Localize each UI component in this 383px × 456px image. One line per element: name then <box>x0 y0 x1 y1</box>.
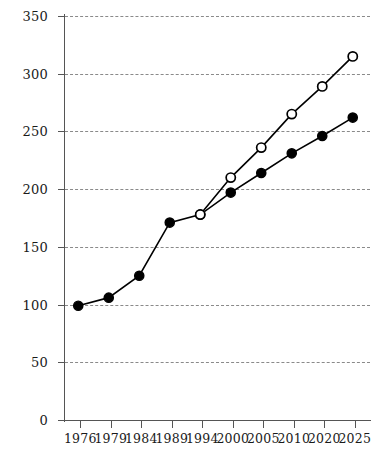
open-circle-series-point <box>257 143 266 152</box>
filled-circle-series-point <box>104 293 113 302</box>
filled-circle-series-point <box>318 131 327 140</box>
open-circle-series-line <box>200 56 353 214</box>
open-circle-series-point <box>318 82 327 91</box>
filled-circle-series-point <box>226 188 235 197</box>
filled-circle-series-point <box>348 113 357 122</box>
open-circle-series-point <box>226 173 235 182</box>
filled-circle-series-point <box>165 218 174 227</box>
filled-circle-series-point <box>135 271 144 280</box>
open-circle-series-point <box>196 210 205 219</box>
filled-circle-series-line <box>78 118 353 306</box>
open-circle-series-point <box>348 52 357 61</box>
series-layer <box>0 0 383 456</box>
filled-circle-series-point <box>257 168 266 177</box>
filled-circle-series-point <box>74 301 83 310</box>
filled-circle-series-point <box>287 149 296 158</box>
line-chart: 050100150200250300350 197619791984198919… <box>0 0 383 456</box>
open-circle-series-point <box>287 110 296 119</box>
